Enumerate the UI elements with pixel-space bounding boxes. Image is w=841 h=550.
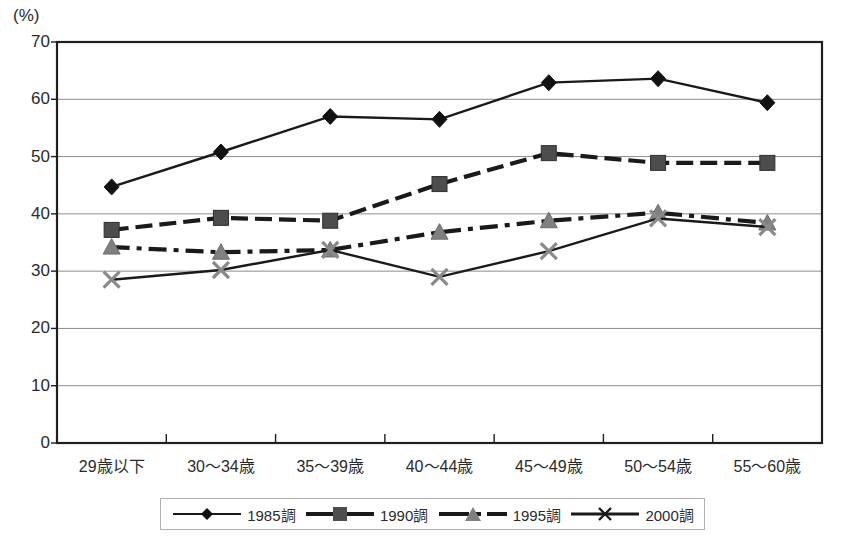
legend-swatch-diamond-icon	[171, 506, 243, 522]
data-point-diamond-icon	[213, 144, 228, 160]
data-point-square-icon	[651, 155, 666, 170]
series-2000調	[104, 210, 776, 287]
grid-lines	[57, 99, 822, 385]
data-point-diamond-icon	[651, 71, 666, 87]
legend-label-1: 1990調	[380, 504, 428, 525]
legend-swatch-triangle-icon	[437, 506, 509, 522]
legend-label-0: 1985調	[247, 504, 295, 525]
data-point-square-icon	[104, 222, 119, 237]
legend-item-0[interactable]: 1985調	[171, 504, 295, 525]
x-axis-tick-label: 45〜49歳	[515, 453, 583, 477]
data-point-square-icon	[213, 210, 228, 225]
legend-swatch-cross-icon	[569, 506, 641, 522]
x-axis-tick-label: 29歳以下	[79, 453, 145, 477]
data-point-diamond-icon	[541, 75, 556, 91]
data-point-square-icon	[323, 213, 338, 228]
legend-item-3[interactable]: 2000調	[569, 504, 693, 525]
legend-item-1[interactable]: 1990調	[304, 504, 428, 525]
x-axis-tick-label: 35〜39歳	[296, 453, 364, 477]
x-axis-tick-label: 55〜60歳	[734, 453, 802, 477]
data-point-square-icon	[760, 155, 775, 170]
plot-frame	[57, 42, 822, 443]
chart-legend: 1985調 1990調 1995調 2000調	[160, 498, 705, 530]
x-axis-ticks	[166, 434, 712, 443]
legend-label-2: 1995調	[513, 504, 561, 525]
data-point-diamond-icon	[432, 111, 447, 127]
chart-container: (%) 010203040506070 29歳以下30〜34歳35〜39歳40〜…	[0, 0, 841, 550]
data-point-square-icon	[432, 177, 447, 192]
data-point-diamond-icon	[104, 179, 119, 195]
x-axis-tick-label: 30〜34歳	[187, 453, 255, 477]
data-point-diamond-icon	[323, 108, 338, 124]
x-axis-tick-label: 50〜54歳	[624, 453, 692, 477]
series-line	[112, 79, 768, 187]
series-1995調	[103, 204, 776, 259]
data-point-diamond-icon	[760, 95, 775, 111]
x-axis-tick-label: 40〜44歳	[406, 453, 474, 477]
data-point-square-icon	[541, 146, 556, 161]
legend-item-2[interactable]: 1995調	[437, 504, 561, 525]
legend-swatch-square-icon	[304, 506, 376, 522]
legend-label-3: 2000調	[645, 504, 693, 525]
